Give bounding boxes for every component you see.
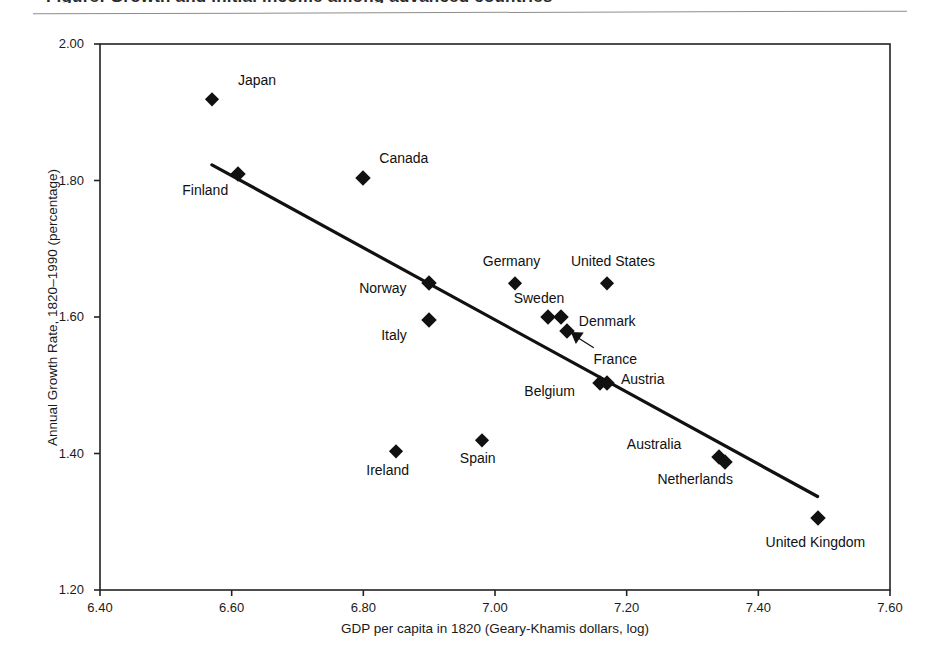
data-point-label: United States (571, 253, 655, 269)
data-point-label: Sweden (514, 290, 565, 306)
y-axis-label: Annual Growth Rate, 1820–1990 (percentag… (45, 98, 60, 518)
data-point-label: Norway (359, 280, 406, 296)
data-point-label: United Kingdom (766, 534, 866, 550)
x-tick-6.60: 6.60 (202, 600, 262, 615)
y-tick-1.20: 1.20 (38, 582, 84, 597)
data-point-label: Belgium (524, 383, 575, 399)
trendline (212, 165, 818, 497)
data-point-label: Denmark (579, 313, 636, 329)
x-tick-7.20: 7.20 (597, 600, 657, 615)
figure-scatter-growth-vs-gdp: Figure: Growth and initial income among … (0, 0, 935, 653)
data-point-label: France (593, 351, 637, 367)
y-tick-2.00: 2.00 (38, 36, 84, 51)
x-tick-7.00: 7.00 (465, 600, 525, 615)
plot-canvas (0, 0, 935, 653)
data-point-label: Australia (627, 436, 681, 452)
x-tick-7.40: 7.40 (728, 600, 788, 615)
data-point-label: Canada (379, 150, 428, 166)
data-point-label: Spain (460, 450, 496, 466)
x-axis-label: GDP per capita in 1820 (Geary-Khamis dol… (100, 621, 890, 636)
data-point-label: Italy (381, 327, 407, 343)
x-tick-6.80: 6.80 (333, 600, 393, 615)
france-callout (571, 332, 594, 348)
data-point-label: Japan (238, 72, 276, 88)
data-point-label: Germany (483, 253, 541, 269)
x-tick-6.40: 6.40 (70, 600, 130, 615)
x-tick-7.60: 7.60 (860, 600, 920, 615)
data-point-label: Austria (621, 371, 665, 387)
data-point-label: Ireland (366, 462, 409, 478)
data-point-label: Finland (182, 182, 228, 198)
data-point-label: Netherlands (657, 471, 733, 487)
